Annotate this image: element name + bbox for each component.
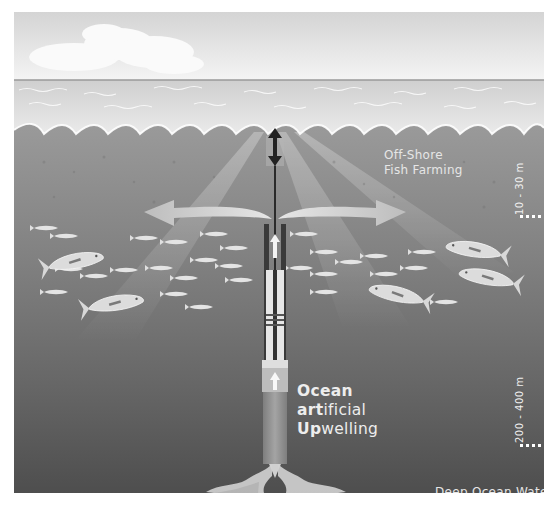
title-word-ificial: ificial [323, 401, 366, 419]
fish-farming-label-line1: Off-Shore [384, 148, 463, 163]
diagram-title: Ocean artificial Upwelling [297, 382, 378, 439]
deep-ocean-water-label: Deep Ocean Water [435, 485, 544, 493]
deep-depth-marker [520, 444, 542, 447]
upwelling-diagram: Off-Shore Fish Farming 10 - 30 m 200 - 4… [14, 12, 544, 493]
fish-farming-label-line2: Fish Farming [384, 163, 463, 178]
surface-depth-marker [520, 215, 542, 218]
title-word-art: art [297, 401, 323, 419]
fish-farming-label: Off-Shore Fish Farming [384, 148, 463, 178]
title-word-ocean: Ocean [297, 382, 353, 400]
deep-depth-label: 200 - 400 m [514, 376, 525, 443]
image-credit: @Crean / GEOMAR [34, 492, 85, 493]
diagram-illustration [14, 12, 544, 493]
surface-depth-label: 10 - 30 m [514, 162, 525, 215]
title-word-welling: welling [321, 420, 378, 438]
title-word-up: Up [297, 420, 321, 438]
